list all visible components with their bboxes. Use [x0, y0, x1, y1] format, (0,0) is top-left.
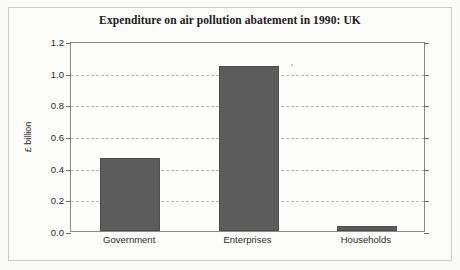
- y-axis-tick-label: 0.6: [51, 132, 64, 143]
- axis-tick: [424, 201, 429, 202]
- bar: [219, 66, 279, 231]
- y-axis-tick-label: 0.8: [51, 100, 64, 111]
- axis-tick: [424, 138, 429, 139]
- y-axis-tick-label: 1.2: [51, 37, 64, 48]
- y-axis-tick-labels: 0.00.20.40.60.81.01.2: [26, 42, 64, 232]
- x-axis-tick-label: Government: [103, 234, 155, 245]
- plot-area: [70, 42, 425, 232]
- x-axis-tick-labels: GovernmentEnterprisesHouseholds: [70, 234, 425, 250]
- axis-tick: [66, 138, 71, 139]
- bar: [100, 158, 160, 231]
- y-axis-tick-label: 0.0: [51, 227, 64, 238]
- bar: [337, 226, 397, 231]
- axis-tick: [66, 75, 71, 76]
- axis-tick: [424, 106, 429, 107]
- chart-figure: Expenditure on air pollution abatement i…: [0, 0, 460, 270]
- x-axis-tick-label: Households: [341, 234, 391, 245]
- axis-tick: [66, 106, 71, 107]
- axis-tick: [66, 170, 71, 171]
- axis-tick: [424, 43, 429, 44]
- axis-tick: [66, 43, 71, 44]
- axis-tick: [66, 201, 71, 202]
- axis-tick: [424, 75, 429, 76]
- scan-artifact-speck: [291, 64, 293, 66]
- y-axis-tick-label: 0.4: [51, 163, 64, 174]
- y-axis-tick-label: 0.2: [51, 195, 64, 206]
- y-axis-tick-label: 1.0: [51, 68, 64, 79]
- chart-title: Expenditure on air pollution abatement i…: [0, 14, 460, 26]
- x-axis-tick-label: Enterprises: [223, 234, 271, 245]
- axis-tick: [424, 170, 429, 171]
